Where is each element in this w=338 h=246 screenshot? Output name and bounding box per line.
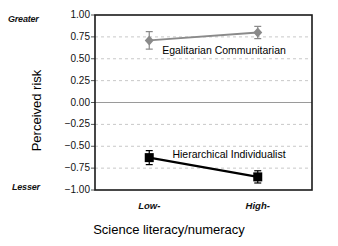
series-line-hierarchical (149, 158, 258, 177)
data-point-marker (253, 172, 262, 181)
data-point-marker (253, 28, 262, 38)
data-point-marker (145, 153, 154, 162)
x-axis-title: Science literacy/numeracy (0, 222, 338, 237)
series-label-egalitarian-communitarian: Egalitarian Communitarian (162, 44, 286, 56)
chart-figure: Greater Lesser Perceived risk 1.000.750.… (0, 0, 338, 246)
x-axis-tick-label: High- (246, 200, 270, 211)
data-point-marker (145, 35, 154, 45)
plot-area (0, 0, 338, 246)
x-axis-tick-label: Low- (138, 200, 160, 211)
series-label-hierarchical-individualist: Hierarchical Individualist (172, 148, 285, 160)
